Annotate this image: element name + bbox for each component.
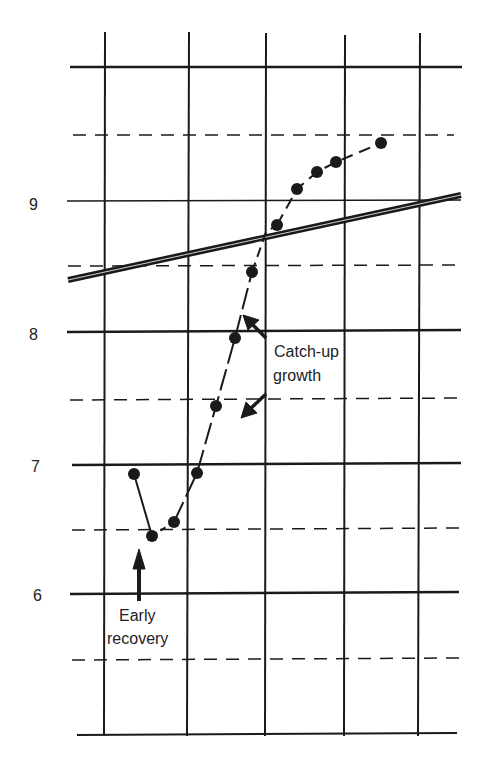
early-recovery-annotation: Early recovery bbox=[107, 549, 168, 647]
early-recovery-label-line1: Early bbox=[119, 607, 155, 624]
y-tick-9: 9 bbox=[29, 196, 38, 213]
catch-up-label-line1: Catch-up bbox=[274, 343, 339, 360]
catch-up-label-line2: growth bbox=[273, 367, 321, 384]
growth-chart: 9 8 7 6 Catch-up growth Early recovery bbox=[0, 0, 488, 770]
early-recovery-label-line2: recovery bbox=[107, 630, 168, 647]
arrow-down-left-icon bbox=[241, 394, 266, 418]
y-tick-6: 6 bbox=[33, 587, 42, 604]
y-tick-8: 8 bbox=[29, 326, 38, 343]
data-points bbox=[128, 137, 387, 542]
y-axis-labels: 9 8 7 6 bbox=[29, 196, 42, 604]
arrow-up-left-icon bbox=[243, 315, 266, 338]
y-tick-7: 7 bbox=[31, 458, 40, 475]
